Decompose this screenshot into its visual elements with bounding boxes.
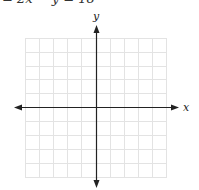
coordinate-plane: x y [0, 0, 199, 190]
x-axis-label: x [183, 101, 190, 114]
y-axis-label: y [92, 10, 100, 23]
y-axis-down-arrow-icon [94, 180, 100, 188]
y-axis-up-arrow-icon [94, 25, 100, 33]
x-axis-left-arrow-icon [14, 105, 22, 111]
x-axis-right-arrow-icon [171, 105, 179, 111]
